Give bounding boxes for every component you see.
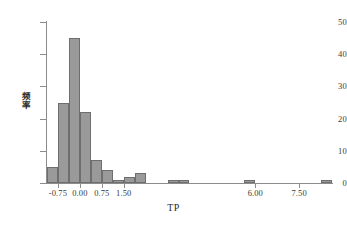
histogram-bar (135, 173, 146, 183)
histogram-bar (244, 180, 255, 183)
x-tick-label-1.50: 1.50 (116, 188, 131, 198)
y-tick-0 (40, 183, 46, 184)
histogram-bar (321, 180, 332, 183)
x-axis-label: TP (0, 202, 347, 213)
x-tick-label-7.50: 7.50 (291, 188, 306, 198)
histogram-bar (102, 170, 113, 183)
y-tick-40 (40, 54, 46, 55)
histogram-bar (179, 180, 190, 183)
histogram-bar (91, 160, 102, 183)
y-tick-10 (40, 151, 46, 152)
histogram-bar (58, 103, 69, 184)
histogram-bar (69, 38, 80, 183)
histogram-bars (47, 22, 332, 183)
histogram-bar (80, 112, 91, 183)
histogram-bar (113, 180, 124, 183)
y-axis-label-char-2: 率 (20, 101, 32, 110)
y-tick-20 (40, 119, 46, 120)
histogram-figure: 频 率 01020304050 -0.750.000.751.506.007.5… (0, 0, 347, 225)
x-tick-label-0.00: 0.00 (72, 188, 87, 198)
histogram-bar (47, 167, 58, 183)
histogram-bar (124, 177, 135, 183)
y-tick-30 (40, 86, 46, 87)
x-tick-label--0.75: -0.75 (49, 188, 67, 198)
y-axis-label: 频 率 (20, 92, 32, 110)
y-tick-50 (40, 22, 46, 23)
x-tick-label-6.00: 6.00 (248, 188, 263, 198)
histogram-bar (168, 180, 179, 183)
x-tick-label-0.75: 0.75 (94, 188, 109, 198)
x-axis-line (46, 183, 333, 184)
